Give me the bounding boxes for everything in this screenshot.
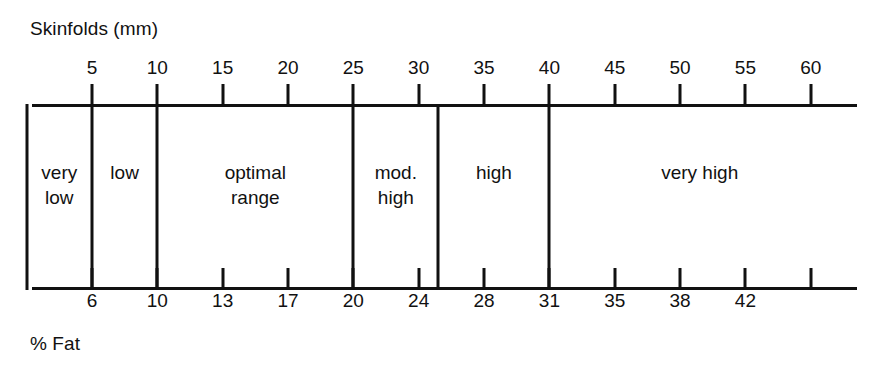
top-tick-mark (809, 84, 812, 105)
category-label: optimal range (225, 160, 286, 210)
top-tick-label: 55 (735, 57, 756, 78)
bottom-tick-mark (417, 268, 420, 289)
bottom-tick-label: 20 (343, 290, 364, 311)
top-tick-label: 50 (670, 57, 691, 78)
category-divider (156, 104, 159, 290)
bottom-tick-label: 42 (735, 290, 756, 311)
category-label: mod. high (375, 160, 417, 210)
category-label: very high (661, 160, 738, 185)
top-tick-mark (679, 84, 682, 105)
top-tick-label: 15 (212, 57, 233, 78)
bottom-tick-mark (287, 268, 290, 289)
category-label: high (476, 160, 512, 185)
top-tick-label: 45 (604, 57, 625, 78)
top-tick-mark (744, 84, 747, 105)
skinfolds-percent-fat-chart: Skinfolds (mm) % Fat 5101520253035404550… (0, 0, 878, 377)
top-tick-mark (613, 84, 616, 105)
bottom-tick-label: 24 (408, 290, 429, 311)
bottom-axis-title: % Fat (30, 333, 80, 355)
bottom-tick-label: 17 (277, 290, 298, 311)
bottom-tick-mark (483, 268, 486, 289)
bottom-tick-mark (221, 268, 224, 289)
top-tick-label: 60 (800, 57, 821, 78)
bottom-tick-label: 35 (604, 290, 625, 311)
top-tick-label: 30 (408, 57, 429, 78)
category-divider (25, 104, 28, 290)
category-label: very low (41, 160, 77, 210)
top-tick-label: 40 (539, 57, 560, 78)
category-divider (352, 104, 355, 290)
top-tick-label: 20 (277, 57, 298, 78)
bottom-tick-mark (613, 268, 616, 289)
top-tick-mark (417, 84, 420, 105)
top-tick-mark (156, 84, 159, 105)
bottom-tick-label: 28 (473, 290, 494, 311)
top-tick-label: 5 (87, 57, 98, 78)
category-divider (437, 104, 440, 290)
category-divider (90, 104, 93, 290)
top-tick-mark (483, 84, 486, 105)
bottom-tick-label: 10 (147, 290, 168, 311)
top-tick-label: 25 (343, 57, 364, 78)
bottom-tick-label: 13 (212, 290, 233, 311)
top-tick-mark (90, 84, 93, 105)
bottom-tick-mark (744, 268, 747, 289)
bottom-tick-mark (679, 268, 682, 289)
top-tick-label: 35 (473, 57, 494, 78)
bottom-tick-label: 31 (539, 290, 560, 311)
bottom-tick-label: 38 (670, 290, 691, 311)
category-label: low (110, 160, 139, 185)
top-tick-mark (352, 84, 355, 105)
bottom-tick-mark (809, 268, 812, 289)
bottom-tick-label: 6 (87, 290, 98, 311)
top-axis-title: Skinfolds (mm) (30, 18, 158, 40)
top-tick-mark (221, 84, 224, 105)
top-tick-label: 10 (147, 57, 168, 78)
top-tick-mark (287, 84, 290, 105)
category-divider (548, 104, 551, 290)
top-tick-mark (548, 84, 551, 105)
